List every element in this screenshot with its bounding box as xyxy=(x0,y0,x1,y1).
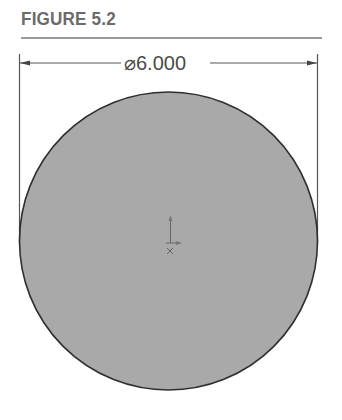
circle-sketch[interactable] xyxy=(20,92,318,390)
diameter-dimension[interactable]: ⌀6.000 xyxy=(20,52,317,74)
arrow-right-icon xyxy=(307,61,317,66)
arrow-left-icon xyxy=(20,61,30,66)
dimension-text: ⌀6.000 xyxy=(124,52,186,74)
sketch-drawing: ⌀6.000 xyxy=(0,0,342,420)
